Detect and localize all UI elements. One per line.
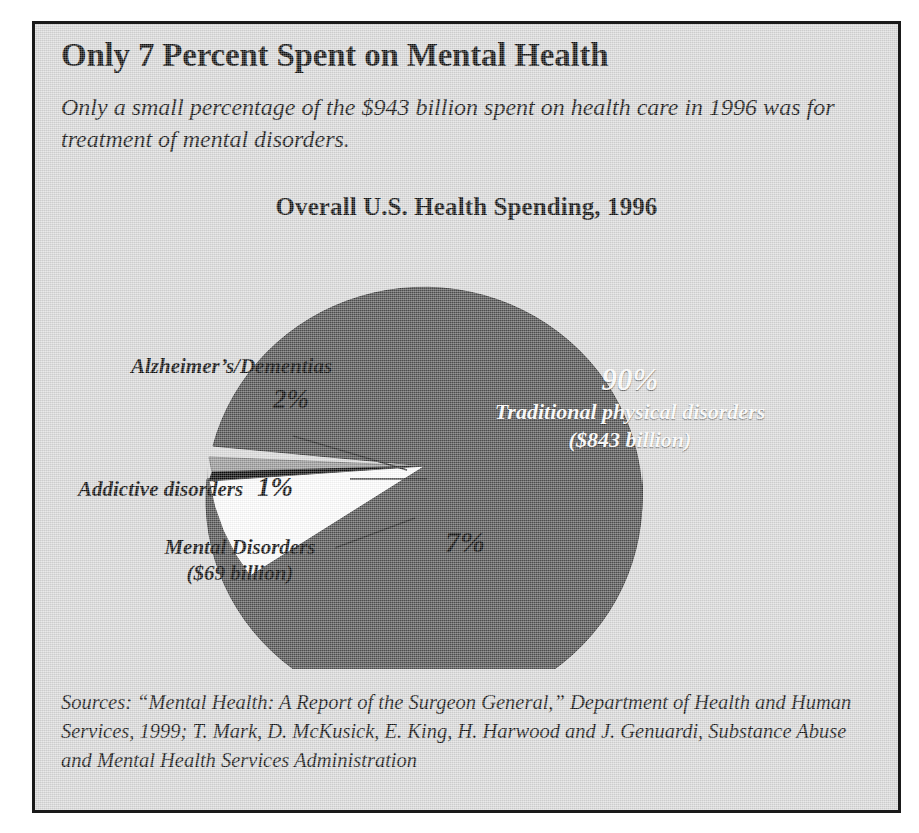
callout-label-mental: Mental Disorders [164,535,315,559]
sources-note: Sources: “Mental Health: A Report of the… [61,688,876,775]
chart-panel: Only 7 Percent Spent on Mental Health On… [32,21,901,813]
figure-root: Only 7 Percent Spent on Mental Health On… [0,0,919,833]
callout-value-mental: ($69 billion) [125,561,355,585]
page-title: Only 7 Percent Spent on Mental Health [61,38,861,74]
callout-mental: Mental Disorders ($69 billion) [125,535,355,586]
callout-label-addictive: Addictive disorders [78,477,243,501]
slice-value-traditional: ($843 billion) [465,427,795,453]
slice-pct-traditional: 90% [465,361,795,398]
pie-chart: 90% Traditional physical disorders ($843… [35,229,898,669]
chart-title: Overall U.S. Health Spending, 1996 [35,193,898,221]
subtitle-deck: Only a small percentage of the $943 bill… [61,92,851,156]
callout-label-alzheimers: Alzheimer’s/Dementias [131,354,332,378]
callout-pct-alzheimers: 2% [273,384,332,415]
callout-pct-addictive: 1% [257,472,293,502]
slice-name-traditional: Traditional physical disorders [465,399,795,425]
slice-label-traditional: 90% Traditional physical disorders ($843… [465,361,795,453]
panel-inner: Only 7 Percent Spent on Mental Health On… [35,24,898,810]
callout-alzheimers: Alzheimer’s/Dementias 2% [131,354,332,416]
callout-addictive: Addictive disorders 1% [78,472,293,503]
slice-pct-mental: 7% [445,525,485,559]
